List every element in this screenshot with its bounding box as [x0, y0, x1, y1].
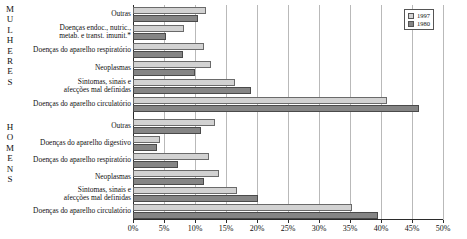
- x-tick-label: 25%: [281, 224, 296, 233]
- bar-row: [133, 136, 443, 151]
- x-tick: [195, 220, 196, 223]
- caption-letter: S: [7, 77, 12, 87]
- x-tick: [288, 220, 289, 223]
- category-labels-column: OutrasDoenças endoc., nutric.,metab. e t…: [18, 5, 131, 220]
- category-label: Neoplasmas: [95, 173, 131, 181]
- group-caption-homens: HOMENS: [2, 122, 18, 184]
- x-tick-label: 0%: [128, 224, 139, 233]
- bar-row: [133, 43, 443, 59]
- category-label: Doenças do aparelho respiratório: [33, 156, 131, 164]
- bar-1980: [133, 127, 201, 134]
- bar-group-homens: [133, 118, 443, 220]
- legend-item-1980: 1980: [408, 20, 430, 27]
- category-label: Doenças endoc., nutric.,metab. e transt.…: [59, 24, 131, 40]
- legend-item-1997: 1997: [408, 12, 430, 19]
- category-label: Sintomas, sinais eafecções mal definidas: [64, 78, 131, 94]
- bar-group-mulheres: [133, 5, 443, 113]
- category-label: Doenças do aparelho circulatório: [33, 100, 131, 108]
- bar-1997: [133, 119, 215, 126]
- x-tick-label: 40%: [374, 224, 389, 233]
- category-label-line: Doenças do aparelho respiratório: [33, 156, 131, 164]
- category-label-line: afecções mal definidas: [64, 194, 131, 202]
- caption-letter: O: [7, 132, 14, 142]
- bar-row: [133, 7, 443, 23]
- bar-row: [133, 79, 443, 95]
- x-axis: 0%5%10%15%20%25%30%35%40%45%50%: [133, 220, 443, 238]
- x-tick-label: 50%: [436, 224, 451, 233]
- plot-area: [133, 5, 443, 220]
- x-tick-label: 20%: [250, 224, 265, 233]
- caption-letter: R: [7, 56, 13, 66]
- x-tick-label: 15%: [219, 224, 234, 233]
- bar-1980: [133, 15, 198, 22]
- caption-letter: U: [7, 14, 14, 24]
- legend-label-1997: 1997: [417, 12, 430, 19]
- legend-swatch-1997: [408, 13, 414, 19]
- bar-1980: [133, 51, 183, 58]
- x-tick-label: 5%: [159, 224, 170, 233]
- bar-1997: [133, 204, 352, 211]
- bar-1980: [133, 161, 178, 168]
- chart-legend: 1997 1980: [404, 9, 434, 30]
- bar-1997: [133, 97, 387, 104]
- bar-1997: [133, 25, 184, 32]
- bar-row: [133, 187, 443, 202]
- category-label-line: afecções mal definidas: [64, 86, 131, 94]
- category-label-line: metab. e transt. imunit.*: [59, 32, 131, 40]
- category-label: Doenças do aparelho circulatório: [33, 207, 131, 215]
- bar-row: [133, 170, 443, 185]
- bar-1980: [133, 33, 166, 40]
- caption-letter: H: [7, 35, 14, 45]
- legend-label-1980: 1980: [417, 20, 430, 27]
- category-label-line: Neoplasmas: [95, 173, 131, 181]
- bar-row: [133, 97, 443, 113]
- category-label: Outras: [111, 10, 131, 18]
- bar-1980: [133, 144, 157, 151]
- x-tick: [133, 220, 134, 223]
- x-tick: [412, 220, 413, 223]
- category-label: Neoplasmas: [95, 64, 131, 72]
- x-tick-label: 10%: [188, 224, 203, 233]
- bar-1980: [133, 178, 204, 185]
- x-tick-label: 30%: [312, 224, 327, 233]
- bar-1997: [133, 79, 235, 86]
- x-tick: [381, 220, 382, 223]
- category-label: Doenças do aparelho respiratório: [33, 46, 131, 54]
- caption-letter: S: [7, 174, 12, 184]
- x-tick: [350, 220, 351, 223]
- bar-row: [133, 61, 443, 77]
- x-tick: [319, 220, 320, 223]
- bar-1997: [133, 43, 204, 50]
- x-tick: [164, 220, 165, 223]
- bar-row: [133, 153, 443, 168]
- bar-1997: [133, 153, 209, 160]
- bar-row: [133, 204, 443, 219]
- bar-1980: [133, 212, 378, 219]
- category-label: Outras: [111, 122, 131, 130]
- caption-letter: E: [7, 153, 13, 163]
- bar-1997: [133, 7, 206, 14]
- caption-letter: E: [7, 46, 13, 56]
- caption-letter: N: [7, 164, 14, 174]
- caption-letter: L: [7, 25, 13, 35]
- bar-1997: [133, 136, 160, 143]
- bar-1980: [133, 87, 251, 94]
- category-label-line: Outras: [111, 10, 131, 18]
- category-label: Sintomas, sinais eafecções mal definidas: [64, 186, 131, 202]
- category-label-line: Doenças do aparelho respiratório: [33, 46, 131, 54]
- x-tick: [257, 220, 258, 223]
- x-tick-label: 35%: [343, 224, 358, 233]
- caption-letter: E: [7, 66, 13, 76]
- category-label-line: Outras: [111, 122, 131, 130]
- bar-1980: [133, 105, 419, 112]
- caption-letter: H: [7, 122, 14, 132]
- category-label: Doenças do aparelho digestivo: [40, 139, 131, 147]
- x-tick-label: 45%: [405, 224, 420, 233]
- bar-1997: [133, 170, 219, 177]
- caption-letter: M: [6, 4, 14, 14]
- legend-swatch-1980: [408, 21, 414, 27]
- bar-1980: [133, 195, 258, 202]
- category-label-line: Doenças do aparelho circulatório: [33, 207, 131, 215]
- gridline: [443, 5, 444, 220]
- category-label-line: Neoplasmas: [95, 64, 131, 72]
